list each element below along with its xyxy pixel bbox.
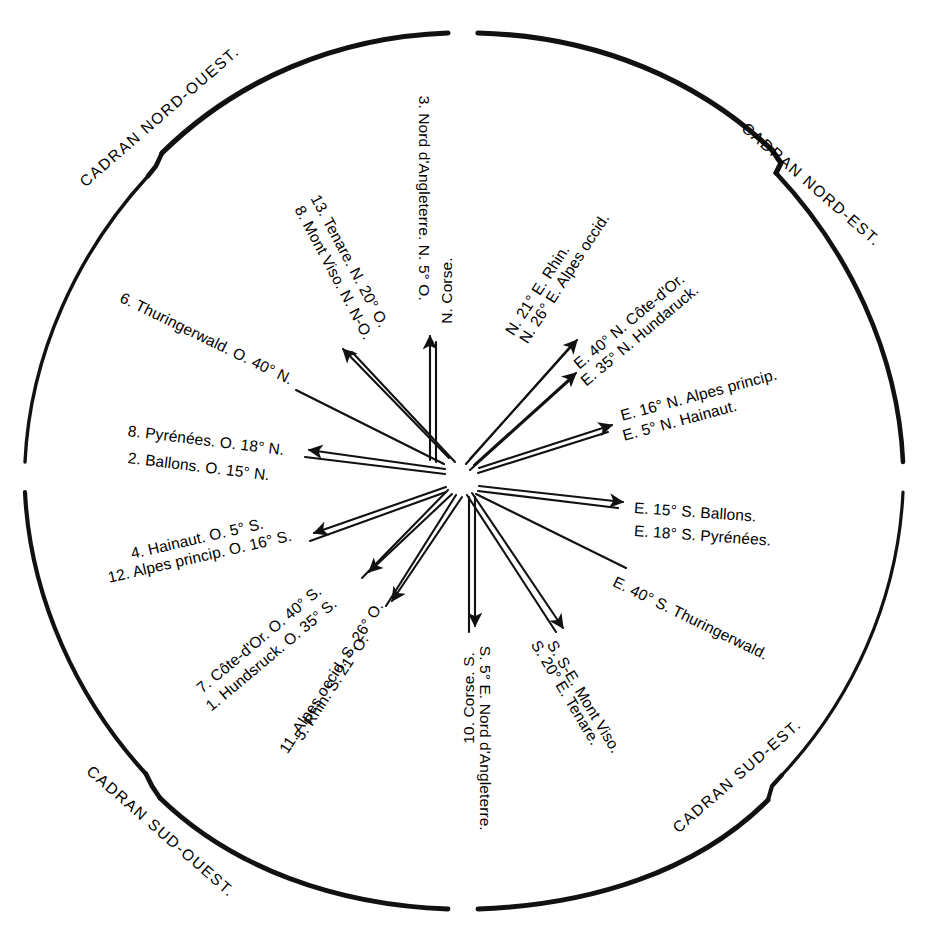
ray-line-e16n-alpes	[479, 425, 612, 468]
ray-line-hainaut-o5s	[314, 487, 446, 533]
ray-label-nordangleterre-n5o: 3. Nord d'Angleterre. N. 5° O.	[416, 96, 432, 301]
outer-circle	[25, 33, 903, 909]
ray-line-montviso-nno	[352, 352, 455, 462]
ray-line-tenare-n20o	[343, 349, 449, 458]
ray-line-cotedor-o40s	[362, 490, 448, 578]
ray-line-e40n-cotedor	[474, 373, 576, 465]
ray-line-alpesprincip-o16s	[310, 492, 446, 541]
ray-line-e35n-hundaruck	[470, 380, 570, 470]
ray-line-alpesoccid-s26o	[386, 495, 456, 606]
wind-rose-figure: CADRAN NORD-OUEST. CADRAN NORD-EST. CADR…	[0, 0, 931, 939]
ray-label-s5e-nordangleterre: S. 5° E. Nord d'Angleterre.	[477, 646, 493, 831]
ray-lines	[296, 336, 626, 632]
ray-label-corse-s: 10. Corse. S.	[461, 652, 477, 744]
ray-label-ncorse: N. Corse.	[439, 257, 455, 323]
ray-line-sse-montviso	[472, 493, 563, 628]
ray-line-n26e-alpes	[466, 347, 570, 464]
ray-line-e5n-hainaut	[478, 432, 608, 473]
ray-line-s20e-tenare	[467, 495, 556, 632]
